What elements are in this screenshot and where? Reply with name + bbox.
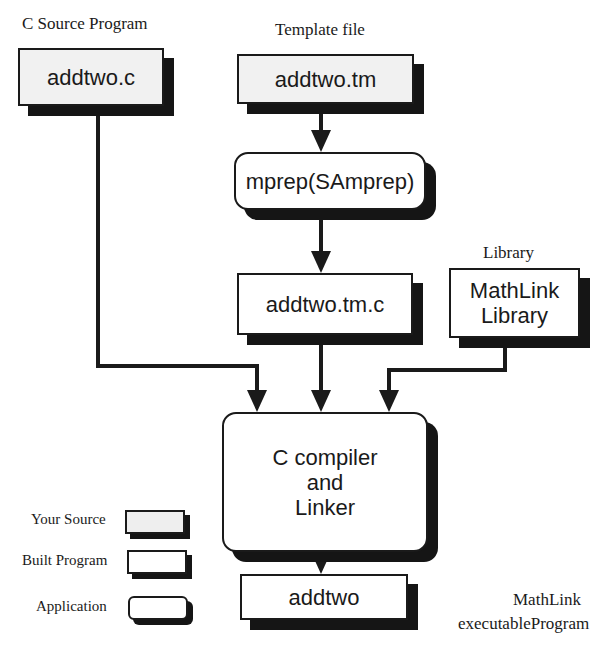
node-compiler-face: C compiler and Linker: [222, 412, 428, 552]
node-addtwo-tm-c[interactable]: addtwo.tm.c: [237, 273, 413, 335]
arrowhead-icon: [311, 130, 331, 152]
edge-library-to-compiler: [389, 348, 505, 393]
label-library: Library: [483, 243, 534, 263]
legend-swatch-your-source: [125, 510, 185, 534]
arrowhead-icon: [311, 251, 331, 273]
label-c-source-program: C Source Program: [22, 14, 148, 34]
node-compiler-line3: Linker: [295, 495, 355, 520]
node-mathlink-library[interactable]: MathLink Library: [449, 268, 580, 338]
node-addtwo-tm-label: addtwo.tm: [237, 54, 414, 104]
node-addtwo-c-label: addtwo.c: [18, 48, 164, 106]
legend-label-built-program: Built Program: [22, 552, 107, 569]
node-addtwo[interactable]: addtwo: [240, 574, 408, 620]
arrowhead-icon: [247, 390, 267, 412]
legend-label-your-source: Your Source: [31, 511, 106, 528]
label-output-line2: executableProgram: [458, 614, 589, 634]
node-mathlink-library-line1: MathLink: [470, 278, 559, 303]
node-mathlink-library-line2: Library: [481, 303, 548, 328]
node-compiler-line2: and: [307, 470, 344, 495]
node-addtwo-tm-c-label: addtwo.tm.c: [237, 273, 413, 335]
node-addtwo-label: addtwo: [240, 574, 408, 620]
node-addtwo-c[interactable]: addtwo.c: [18, 48, 164, 106]
legend-swatch-application: [128, 596, 188, 620]
label-template-file: Template file: [275, 20, 365, 40]
legend-swatch-built-program: [127, 550, 187, 574]
node-compiler-line1: C compiler: [272, 445, 377, 470]
node-mprep[interactable]: mprep(SAmprep): [234, 152, 426, 210]
node-mathlink-library-face: MathLink Library: [449, 268, 580, 338]
arrowhead-icon: [379, 390, 399, 412]
label-output-line1: MathLink: [497, 590, 597, 610]
label-output: MathLink: [497, 590, 597, 610]
node-compiler[interactable]: C compiler and Linker: [222, 412, 428, 552]
arrowhead-icon: [311, 390, 331, 412]
node-addtwo-tm[interactable]: addtwo.tm: [237, 54, 414, 104]
legend-label-application: Application: [36, 598, 107, 615]
node-mprep-label: mprep(SAmprep): [234, 152, 426, 210]
